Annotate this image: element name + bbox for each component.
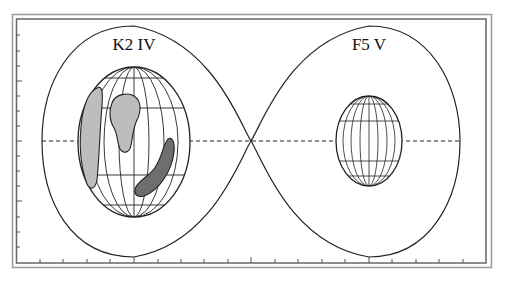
primary-star-label: K2 IV (113, 35, 157, 54)
binary-star-diagram: K2 IV F5 V (0, 0, 506, 281)
primary-star-globe (70, 60, 200, 225)
secondary-star-globe (330, 90, 410, 190)
left-axis-ticks (17, 35, 23, 247)
secondary-star-label: F5 V (352, 35, 387, 54)
bottom-axis-ticks (40, 257, 463, 263)
